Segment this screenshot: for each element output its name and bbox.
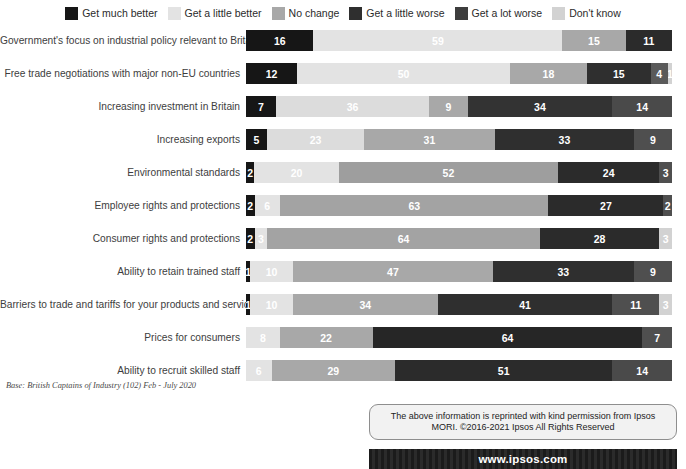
bar-segment-lot_worse[interactable]: 4 bbox=[651, 63, 668, 84]
ipsos-url-bar[interactable]: www.ipsos.com bbox=[369, 449, 677, 469]
bar-segment-much_better[interactable]: 16 bbox=[246, 30, 313, 51]
bar-segment-no_change[interactable]: 22 bbox=[280, 327, 373, 348]
legend-swatch-no_change bbox=[272, 7, 285, 20]
bar-segment-little_worse[interactable]: 28 bbox=[540, 228, 659, 249]
row-label: Consumer rights and protections bbox=[0, 233, 246, 244]
bar-segment-no_change[interactable]: 9 bbox=[429, 96, 467, 117]
bar-segment-little_worse[interactable]: 51 bbox=[395, 360, 612, 381]
legend-item-lot_worse[interactable]: Get a lot worse bbox=[455, 7, 543, 20]
legend-item-much_better[interactable]: Get much better bbox=[65, 7, 157, 20]
bar-segment-little_worse[interactable]: 41 bbox=[438, 294, 613, 315]
bar-segment-little_worse[interactable]: 33 bbox=[493, 261, 634, 282]
bar-segment-little_better[interactable]: 36 bbox=[276, 96, 429, 117]
bar-segment-value: 4 bbox=[656, 68, 662, 80]
legend-item-little_better[interactable]: Get a little better bbox=[168, 7, 262, 20]
bar-segment-value: 14 bbox=[636, 365, 648, 377]
bar-segment-value: 9 bbox=[650, 266, 656, 278]
legend-swatch-little_better bbox=[168, 7, 181, 20]
bar-segment-little_worse[interactable]: 11 bbox=[626, 30, 672, 51]
row-bar: 73693414 bbox=[246, 96, 672, 117]
bar-segment-value: 2 bbox=[247, 233, 253, 245]
row-label: Ability to recruit skilled staff bbox=[0, 365, 246, 376]
bar-segment-no_change[interactable]: 47 bbox=[293, 261, 493, 282]
chart-footnote: Base: British Captains of Industry (102)… bbox=[6, 381, 196, 390]
bar-segment-much_better[interactable]: 2 bbox=[246, 228, 255, 249]
row-bar: 6295114 bbox=[246, 360, 672, 381]
legend-swatch-little_worse bbox=[349, 7, 362, 20]
legend-label-little_better: Get a little better bbox=[185, 7, 262, 20]
bar-segment-dont_know[interactable]: 3 bbox=[659, 294, 672, 315]
bar-segment-no_change[interactable]: 63 bbox=[280, 195, 548, 216]
bar-segment-much_better[interactable]: 12 bbox=[246, 63, 297, 84]
bar-segment-lot_worse[interactable]: 7 bbox=[642, 327, 672, 348]
chart-row: Environmental standards22052243 bbox=[0, 162, 686, 183]
bar-segment-little_better[interactable]: 20 bbox=[254, 162, 338, 183]
bar-segment-much_better[interactable]: 7 bbox=[246, 96, 276, 117]
bar-segment-little_better[interactable]: 23 bbox=[267, 129, 364, 150]
bar-segment-no_change[interactable]: 52 bbox=[339, 162, 558, 183]
bar-segment-lot_worse[interactable]: 3 bbox=[659, 228, 672, 249]
bar-segment-little_better[interactable]: 50 bbox=[297, 63, 510, 84]
bar-segment-value: 47 bbox=[387, 266, 399, 278]
bar-segment-lot_worse[interactable]: 3 bbox=[659, 162, 672, 183]
bar-segment-much_better[interactable]: 2 bbox=[246, 162, 254, 183]
bar-segment-lot_worse[interactable]: 11 bbox=[612, 294, 659, 315]
bar-segment-no_change[interactable]: 64 bbox=[267, 228, 540, 249]
bar-segment-value: 28 bbox=[594, 233, 606, 245]
row-label: Barriers to trade and tariffs for your p… bbox=[0, 299, 246, 310]
row-label: Employee rights and protections bbox=[0, 200, 246, 211]
bar-segment-value: 22 bbox=[320, 332, 332, 344]
bar-segment-lot_worse[interactable]: 9 bbox=[634, 261, 672, 282]
bar-segment-value: 10 bbox=[266, 299, 278, 311]
row-bar: 2364283 bbox=[246, 228, 672, 249]
bar-segment-little_better[interactable]: 59 bbox=[313, 30, 562, 51]
bar-segment-lot_worse[interactable]: 14 bbox=[612, 96, 672, 117]
bar-segment-no_change[interactable]: 34 bbox=[293, 294, 438, 315]
bar-segment-value: 6 bbox=[256, 365, 262, 377]
legend-item-no_change[interactable]: No change bbox=[272, 7, 340, 20]
bar-segment-little_worse[interactable]: 64 bbox=[373, 327, 643, 348]
bar-segment-no_change[interactable]: 29 bbox=[272, 360, 396, 381]
chart-row: Free trade negotiations with major non-E… bbox=[0, 63, 686, 84]
bar-segment-little_better[interactable]: 10 bbox=[250, 261, 293, 282]
bar-segment-no_change[interactable]: 31 bbox=[364, 129, 495, 150]
bar-segment-no_change[interactable]: 15 bbox=[562, 30, 625, 51]
bar-segment-value: 11 bbox=[630, 299, 641, 311]
bar-segment-little_worse[interactable]: 27 bbox=[548, 195, 663, 216]
row-bar: 822647 bbox=[246, 327, 672, 348]
bar-segment-value: 34 bbox=[359, 299, 371, 311]
legend-item-dont_know[interactable]: Don't know bbox=[552, 7, 621, 20]
bar-segment-value: 3 bbox=[663, 167, 669, 179]
bar-segment-little_better[interactable]: 10 bbox=[250, 294, 293, 315]
bar-segment-dont_know[interactable]: 1 bbox=[668, 63, 672, 84]
chart-plot-area: Government's focus on industrial policy … bbox=[0, 30, 686, 393]
bar-segment-little_better[interactable]: 8 bbox=[246, 327, 280, 348]
chart-row: Ability to recruit skilled staff6295114 bbox=[0, 360, 686, 381]
row-bar: 22052243 bbox=[246, 162, 672, 183]
bar-segment-little_better[interactable]: 6 bbox=[246, 360, 272, 381]
bar-segment-little_better[interactable]: 3 bbox=[255, 228, 268, 249]
chart-row: Government's focus on industrial policy … bbox=[0, 30, 686, 51]
bar-segment-little_worse[interactable]: 34 bbox=[468, 96, 613, 117]
bar-segment-value: 11 bbox=[643, 35, 654, 47]
bar-segment-value: 52 bbox=[443, 167, 455, 179]
bar-segment-little_worse[interactable]: 33 bbox=[495, 129, 634, 150]
bar-segment-little_worse[interactable]: 15 bbox=[587, 63, 651, 84]
bar-segment-lot_worse[interactable]: 2 bbox=[663, 195, 672, 216]
legend-item-little_worse[interactable]: Get a little worse bbox=[349, 7, 444, 20]
bar-segment-value: 3 bbox=[663, 233, 669, 245]
bar-segment-lot_worse[interactable]: 14 bbox=[612, 360, 672, 381]
row-bar: 11047339 bbox=[246, 261, 672, 282]
chart-legend: Get much betterGet a little betterNo cha… bbox=[0, 7, 686, 20]
bar-segment-lot_worse[interactable]: 9 bbox=[634, 129, 672, 150]
chart-row: Increasing exports52331339 bbox=[0, 129, 686, 150]
bar-segment-much_better[interactable]: 2 bbox=[246, 195, 255, 216]
bar-segment-value: 14 bbox=[636, 101, 648, 113]
bar-segment-little_better[interactable]: 6 bbox=[255, 195, 281, 216]
row-label: Increasing exports bbox=[0, 134, 246, 145]
bar-segment-much_better[interactable]: 5 bbox=[246, 129, 267, 150]
bar-segment-value: 27 bbox=[600, 200, 612, 212]
bar-segment-no_change[interactable]: 18 bbox=[510, 63, 587, 84]
legend-swatch-lot_worse bbox=[455, 7, 468, 20]
bar-segment-little_worse[interactable]: 24 bbox=[558, 162, 659, 183]
